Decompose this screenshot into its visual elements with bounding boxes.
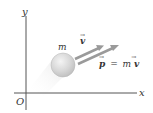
mass-label: m — [58, 43, 67, 52]
momentum-equation: → p = m → v — [99, 60, 139, 69]
vector-arrow-icon: → — [99, 54, 104, 60]
velocity-label: → v — [80, 37, 85, 46]
y-axis-label: y — [22, 7, 28, 17]
vector-arrow-icon: → — [80, 32, 85, 38]
particle-sphere — [51, 53, 75, 77]
x-axis-label: x — [139, 88, 145, 98]
origin-label: O — [16, 97, 24, 107]
vector-arrow-icon: → — [131, 54, 136, 60]
